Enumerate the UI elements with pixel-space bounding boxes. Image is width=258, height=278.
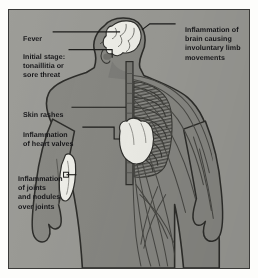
heart-highlight <box>119 118 153 164</box>
diagram-frame: Fever Initial stage: tonaillitia or sore… <box>8 9 250 269</box>
label-brain: Inflammation of brain causing involuntar… <box>185 26 250 63</box>
label-joints: Inflammation of joints and nodules over … <box>18 175 63 212</box>
diagram-root: Fever Initial stage: tonaillitia or sore… <box>0 0 258 278</box>
label-fever: Fever <box>23 35 42 44</box>
label-initial-stage: Initial stage: tonaillitia or sore threa… <box>23 53 65 81</box>
label-heart-valves: Inflammation of heart valves <box>23 131 73 149</box>
label-skin-rashes: Skin rashes <box>23 111 63 120</box>
